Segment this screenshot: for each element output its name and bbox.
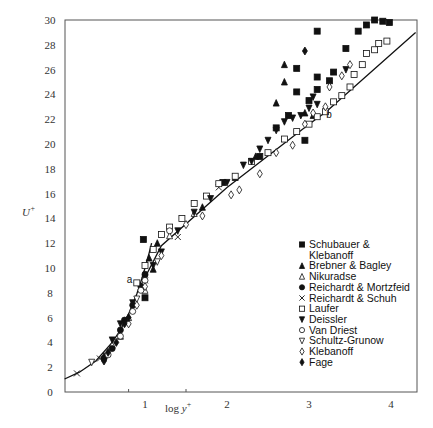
y-tick-label: 14 [45,212,57,224]
open-square-marker-icon [314,114,320,120]
x-axis-label: log y+ [165,400,192,414]
filled-triangle-up-marker-icon [299,263,304,269]
open-square-marker-icon [232,173,238,179]
y-axis-ticks: 024681012141618202224262830 [45,14,57,398]
filled-square-marker-icon [314,86,320,92]
filled-square-marker-icon [294,65,300,71]
open-square-marker-icon [351,72,357,78]
filled-square-marker-icon [314,28,320,34]
theory-curve [65,243,152,379]
x-tick-label: 4 [388,398,394,410]
filled-triangle-down-marker-icon [314,101,320,108]
y-tick-label: 22 [45,113,56,125]
theory-curve [138,32,415,290]
open-square-marker-icon [150,246,156,252]
open-triangle-down-marker-icon [299,338,304,344]
y-tick-label: 6 [47,312,53,324]
filled-triangle-up-marker-icon [281,61,287,68]
filled-square-marker-icon [343,46,349,52]
filled-square-marker-icon [386,19,392,25]
y-tick-label: 18 [45,163,57,175]
open-square-marker-icon [134,280,140,286]
open-square-marker-icon [299,306,304,311]
filled-square-marker-icon [302,137,308,143]
filled-square-marker-icon [314,74,320,80]
filled-square-marker-icon [331,69,337,75]
filled-square-marker-icon [142,295,148,301]
filled-square-marker-icon [372,17,378,23]
filled-diamond-marker-icon [300,359,304,366]
y-tick-label: 28 [45,39,57,51]
open-diamond-marker-icon [300,348,304,355]
filled-triangle-down-marker-icon [257,146,263,153]
open-circle-marker-icon [167,228,173,234]
y-tick-label: 4 [47,336,53,348]
open-square-marker-icon [142,263,148,269]
open-square-marker-icon [384,38,390,44]
filled-square-marker-icon [140,236,146,242]
open-square-marker-icon [265,150,271,156]
x-tick-label: 3 [306,398,312,410]
open-square-marker-icon [339,93,345,99]
open-circle-marker-icon [130,308,136,314]
open-diamond-marker-icon [237,186,242,194]
open-diamond-marker-icon [200,212,205,220]
open-square-marker-icon [191,201,197,207]
legend: Schubauer &KlebanoffBrebner & BagleyNiku… [299,238,410,368]
x-tick-label: 1 [142,398,148,410]
x-tick-label: 2 [224,398,230,410]
open-diamond-marker-icon [257,170,262,178]
filled-triangle-down-marker-icon [240,162,246,169]
open-triangle-up-marker-icon [299,274,304,280]
open-square-marker-icon [376,41,382,47]
filled-triangle-up-marker-icon [281,79,287,86]
open-circle-marker-icon [299,328,304,333]
open-circle-marker-icon [138,287,144,293]
y-tick-label: 24 [45,88,57,100]
open-square-marker-icon [179,215,185,221]
filled-triangle-down-marker-icon [343,67,349,74]
filled-triangle-down-marker-icon [306,105,312,112]
y-axis-label: U+ [22,204,35,218]
open-square-marker-icon [294,129,300,135]
filled-diamond-marker-icon [302,47,307,55]
y-tick-label: 12 [45,237,56,249]
filled-square-marker-icon [299,242,304,247]
open-square-marker-icon [158,232,164,238]
open-square-marker-icon [216,181,222,187]
y-tick-label: 26 [45,64,57,76]
open-diamond-marker-icon [229,191,234,199]
filled-square-marker-icon [294,89,300,95]
open-square-marker-icon [347,84,353,90]
y-tick-label: 16 [45,188,57,200]
y-tick-label: 20 [45,138,57,150]
open-diamond-marker-icon [274,149,279,157]
legend-label: Fage [309,356,333,368]
filled-circle-marker-icon [299,285,304,290]
filled-square-marker-icon [363,22,369,28]
open-square-marker-icon [363,50,369,56]
log-law-velocity-profile-chart: 024681012141618202224262830 1234 U+ log … [0,0,433,428]
y-tick-label: 2 [47,361,53,373]
filled-triangle-down-marker-icon [265,137,271,144]
filled-triangle-down-marker-icon [299,317,304,323]
filled-square-marker-icon [306,98,312,104]
y-tick-label: 8 [47,287,53,299]
filled-triangle-up-marker-icon [154,240,160,247]
y-tick-label: 10 [45,262,57,274]
y-tick-label: 0 [47,386,53,398]
open-square-marker-icon [281,136,287,142]
annotation-b: b [326,109,332,120]
filled-triangle-down-marker-icon [281,119,287,126]
filled-triangle-up-marker-icon [146,255,152,261]
open-diamond-marker-icon [290,141,295,149]
open-circle-marker-icon [117,333,123,339]
x-marker-icon [299,295,304,300]
open-square-marker-icon [372,47,378,53]
open-square-marker-icon [359,62,365,68]
open-diamond-marker-icon [134,301,139,309]
filled-square-marker-icon [380,18,386,24]
theory-curves [65,32,416,379]
filled-square-marker-icon [355,28,361,34]
filled-triangle-up-marker-icon [273,100,279,107]
